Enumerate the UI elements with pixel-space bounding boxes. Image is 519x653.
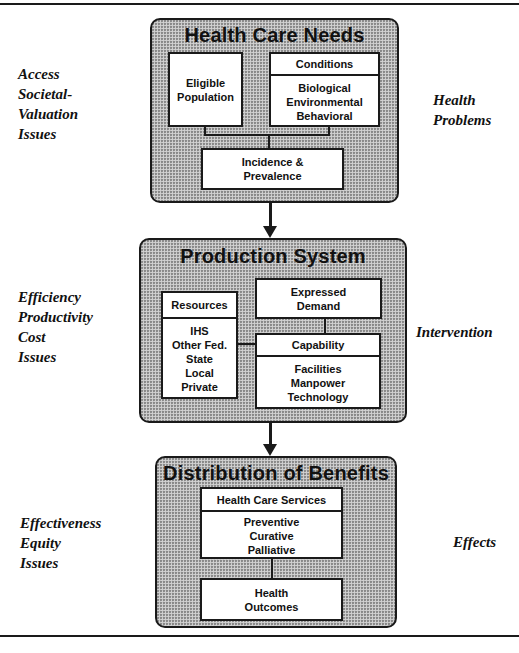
bottom-rule xyxy=(0,635,519,637)
arrow-down-icon xyxy=(263,226,277,238)
box-text: Eligible xyxy=(186,76,225,90)
label-line: Cost xyxy=(18,327,93,347)
box-conditions: Conditions Biological Environmental Beha… xyxy=(269,52,380,127)
box-header-text: Capability xyxy=(292,338,345,352)
box-text: Incidence & xyxy=(242,155,304,169)
right-label-intervention: Intervention xyxy=(416,322,493,342)
box-header-text: Health Care Services xyxy=(217,493,326,507)
left-label-effectiveness: Effectiveness Equity Issues xyxy=(20,513,101,573)
box-text: Curative xyxy=(249,529,293,543)
box-text: Expressed xyxy=(291,285,347,299)
box-text: IHS xyxy=(190,324,208,338)
box-text: Private xyxy=(181,380,218,394)
panel-title: Health Care Needs xyxy=(152,24,397,47)
box-eligible-population: Eligible Population xyxy=(168,52,243,127)
box-text: Technology xyxy=(288,390,349,404)
label-line: Health xyxy=(433,90,491,110)
box-text: Population xyxy=(177,90,234,104)
box-expressed-demand: Expressed Demand xyxy=(255,278,382,319)
box-body: Facilities Manpower Technology xyxy=(257,357,379,409)
connector xyxy=(324,318,326,334)
box-text: Prevalence xyxy=(243,169,301,183)
right-label-effects: Effects xyxy=(453,532,496,552)
label-line: Problems xyxy=(433,110,491,130)
box-header: Health Care Services xyxy=(202,489,341,512)
box-text: Manpower xyxy=(291,376,345,390)
box-body: Preventive Curative Palliative xyxy=(202,512,341,559)
flow-arrow-shaft xyxy=(269,423,272,445)
box-header-text: Conditions xyxy=(296,57,353,71)
box-incidence-prevalence: Incidence & Prevalence xyxy=(201,148,344,190)
label-line: Effects xyxy=(453,532,496,552)
box-resources: Resources IHS Other Fed. State Local Pri… xyxy=(161,291,238,399)
box-text: Palliative xyxy=(248,543,296,557)
box-text: Demand xyxy=(297,299,340,313)
label-line: Access xyxy=(18,64,78,84)
box-header-text: Resources xyxy=(171,298,227,312)
arrow-down-icon xyxy=(263,444,277,456)
right-label-health-problems: Health Problems xyxy=(433,90,491,130)
box-header: Conditions xyxy=(271,54,378,76)
box-header: Capability xyxy=(257,335,379,357)
label-line: Effectiveness xyxy=(20,513,101,533)
label-line: Intervention xyxy=(416,322,493,342)
label-line: Valuation xyxy=(18,104,78,124)
box-health-outcomes: Health Outcomes xyxy=(200,578,343,621)
connector xyxy=(237,343,256,345)
box-text: Behavioral xyxy=(296,109,352,123)
box-body: IHS Other Fed. State Local Private xyxy=(163,319,236,399)
label-line: Issues xyxy=(18,124,78,144)
box-body: Biological Environmental Behavioral xyxy=(271,76,378,127)
connector xyxy=(271,558,273,579)
connector xyxy=(268,134,270,149)
box-text: Local xyxy=(185,366,214,380)
label-line: Equity xyxy=(20,533,101,553)
panel-title: Distribution of Benefits xyxy=(157,462,395,485)
left-label-efficiency: Efficiency Productivity Cost Issues xyxy=(18,287,93,367)
label-line: Societal- xyxy=(18,84,78,104)
flow-arrow-shaft xyxy=(269,203,272,227)
label-line: Issues xyxy=(20,553,101,573)
box-text: Outcomes xyxy=(245,600,299,614)
left-label-access: Access Societal- Valuation Issues xyxy=(18,64,78,144)
label-line: Productivity xyxy=(18,307,93,327)
box-header: Resources xyxy=(163,293,236,319)
label-line: Issues xyxy=(18,347,93,367)
box-text: Health xyxy=(255,586,289,600)
box-text: Facilities xyxy=(294,362,341,376)
box-text: Preventive xyxy=(244,515,300,529)
label-line: Efficiency xyxy=(18,287,93,307)
box-text: Biological xyxy=(298,81,351,95)
top-rule xyxy=(0,3,519,5)
box-capability: Capability Facilities Manpower Technolog… xyxy=(255,333,381,409)
box-text: Other Fed. xyxy=(172,338,227,352)
box-health-care-services: Health Care Services Preventive Curative… xyxy=(200,487,343,559)
panel-title: Production System xyxy=(141,245,405,268)
box-text: State xyxy=(186,352,213,366)
box-text: Environmental xyxy=(286,95,362,109)
connector xyxy=(204,134,330,136)
